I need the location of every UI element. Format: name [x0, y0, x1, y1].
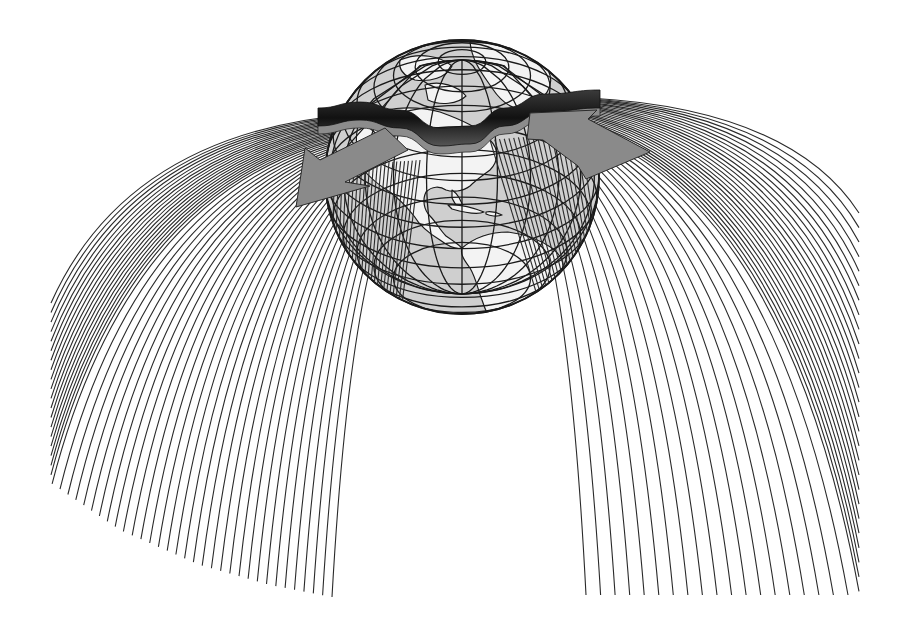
curtain-line [584, 100, 859, 257]
globe-jetstream-diagram [0, 0, 903, 626]
diagram-canvas [0, 0, 903, 626]
